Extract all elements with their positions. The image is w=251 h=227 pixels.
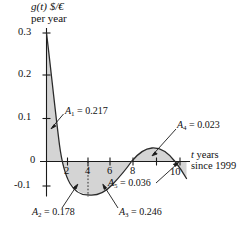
area-label-a1: A1 = 0.217 <box>65 106 108 118</box>
x-tick-label-4: 4 <box>85 165 90 176</box>
leader-arrow-a2 <box>62 184 78 208</box>
x-tick-label-10: 10 <box>170 166 181 177</box>
area-label-a4: A4 = 0.023 <box>177 120 220 132</box>
chart-title: g(t) $/€ per year <box>31 1 67 24</box>
area-label-a1-value: = 0.217 <box>77 105 108 116</box>
y-tick-label-2: 0.1 <box>18 111 31 122</box>
y-tick-label-3: 0 <box>30 154 35 165</box>
area-label-a3: A3 = 0.246 <box>119 207 162 219</box>
chart-plot-area <box>0 0 251 227</box>
area-label-a2: A2 = 0.178 <box>32 207 75 219</box>
chart-title-line2: per year <box>31 13 67 25</box>
area-label-a2-value: = 0.178 <box>44 206 75 217</box>
chart-figure: g(t) $/€ per year 0.3 0.2 0.1 0 -0.1 2 4… <box>0 0 251 227</box>
x-tick-label-2: 2 <box>64 165 69 176</box>
area-label-a5: A5 = 0.036 <box>108 178 151 190</box>
x-axis-title-line2: since 1999 <box>191 160 236 171</box>
x-axis-title: t years since 1999 <box>191 149 236 171</box>
x-tick-label-6: 6 <box>107 165 112 176</box>
area-label-a4-value: = 0.023 <box>189 119 220 130</box>
y-tick-label-0: 0.3 <box>18 26 31 37</box>
y-tick-label-4: -0.1 <box>14 179 31 190</box>
x-axis-title-word: years <box>197 149 219 160</box>
x-tick-label-8: 8 <box>130 165 135 176</box>
area-label-a3-value: = 0.246 <box>131 206 162 217</box>
x-axis-title-line1: t years <box>191 149 236 160</box>
chart-title-line1: g(t) $/€ <box>31 1 67 13</box>
area-label-a5-value: = 0.036 <box>120 177 151 188</box>
y-tick-label-1: 0.2 <box>18 68 31 79</box>
